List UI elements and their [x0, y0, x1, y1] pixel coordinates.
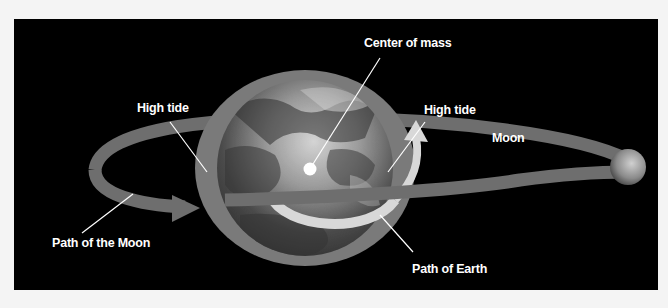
- leader-path-of-moon: [82, 194, 133, 233]
- label-high-tide-right: High tide: [424, 103, 476, 117]
- center-of-mass-dot: [304, 163, 317, 176]
- label-path-of-earth: Path of Earth: [412, 262, 487, 276]
- label-center-of-mass: Center of mass: [364, 36, 452, 50]
- label-path-of-moon: Path of the Moon: [52, 236, 150, 250]
- label-high-tide-left: High tide: [137, 101, 189, 115]
- moon: [610, 149, 646, 185]
- label-moon: Moon: [492, 131, 525, 145]
- tides-diagram: [0, 0, 668, 308]
- moon-orbit-arrowhead: [172, 195, 200, 222]
